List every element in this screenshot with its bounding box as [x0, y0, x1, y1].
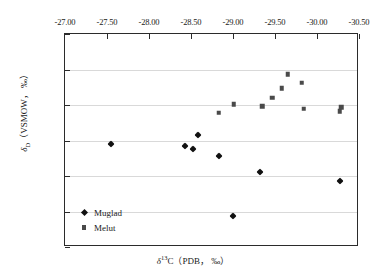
- x-axis-tick-label: -27.50: [97, 17, 118, 27]
- legend-item-muglad[interactable]: Muglad: [78, 205, 122, 220]
- y-axis-tick: [65, 70, 70, 71]
- data-point-muglad: [256, 168, 263, 175]
- x-axis-tick-label: -28.00: [139, 17, 160, 27]
- legend-label: Muglad: [94, 208, 122, 218]
- x-axis-tick: [275, 34, 276, 39]
- x-axis-tick-label: -28.50: [181, 17, 202, 27]
- y-axis-tick: [65, 34, 70, 35]
- data-point-muglad: [194, 132, 201, 139]
- data-point-melut: [300, 81, 305, 86]
- x-axis-tick: [317, 34, 318, 39]
- y-axis-tick: [65, 176, 70, 177]
- data-point-melut: [339, 105, 344, 110]
- x-axis-tick-label: -30.50: [349, 17, 370, 27]
- data-point-melut: [260, 104, 265, 109]
- x-axis-tick: [359, 34, 360, 39]
- x-axis-tick: [149, 34, 150, 39]
- x-axis-title: δ13C（PDB， ‰）: [0, 254, 386, 267]
- plot-area: -27.00-27.50-28.00-28.50-29.00-29.50-30.…: [64, 33, 358, 246]
- data-point-muglad: [108, 141, 115, 148]
- data-point-melut: [301, 106, 306, 111]
- data-point-melut: [232, 102, 237, 107]
- x-axis-tick-label: -27.00: [55, 17, 76, 27]
- legend-item-melut[interactable]: Melut: [78, 220, 122, 235]
- y-axis-title: δD（VSMOW， ‰）: [17, 51, 31, 171]
- scatter-chart-figure: δD（VSMOW， ‰） δ13C（PDB， ‰） -27.00-27.50-2…: [0, 0, 386, 277]
- data-point-muglad: [182, 143, 189, 150]
- data-point-melut: [337, 109, 342, 114]
- data-point-melut: [279, 86, 284, 91]
- legend-label: Melut: [94, 223, 116, 233]
- y-axis-title-subscript: D: [24, 143, 31, 148]
- x-axis-tick: [191, 34, 192, 39]
- y-axis-tick: [65, 141, 70, 142]
- y-axis-title-symbol: δ: [19, 148, 29, 152]
- data-point-muglad: [189, 145, 196, 152]
- x-axis-tick-label: -29.00: [223, 17, 244, 27]
- gridline: [65, 105, 357, 106]
- data-point-muglad: [215, 152, 222, 159]
- y-axis-tick: [65, 105, 70, 106]
- data-point-melut: [270, 95, 275, 100]
- data-point-muglad: [229, 213, 236, 220]
- chart-legend: MugladMelut: [78, 205, 122, 235]
- x-axis-tick: [107, 34, 108, 39]
- square-marker-icon: [78, 225, 90, 230]
- x-axis-tick: [233, 34, 234, 39]
- y-axis-tick: [65, 212, 70, 213]
- diamond-marker-icon: [78, 210, 90, 215]
- x-axis-title-rest: C（PDB， ‰）: [167, 256, 229, 266]
- data-point-muglad: [336, 177, 343, 184]
- x-axis-tick-label: -29.50: [265, 17, 286, 27]
- y-axis-title-rest: （VSMOW， ‰）: [19, 70, 29, 143]
- x-axis-tick-label: -30.00: [307, 17, 328, 27]
- y-axis-tick: [65, 247, 70, 248]
- data-point-melut: [285, 72, 290, 77]
- gridline: [65, 176, 357, 177]
- data-point-melut: [216, 111, 221, 116]
- gridline: [65, 70, 357, 71]
